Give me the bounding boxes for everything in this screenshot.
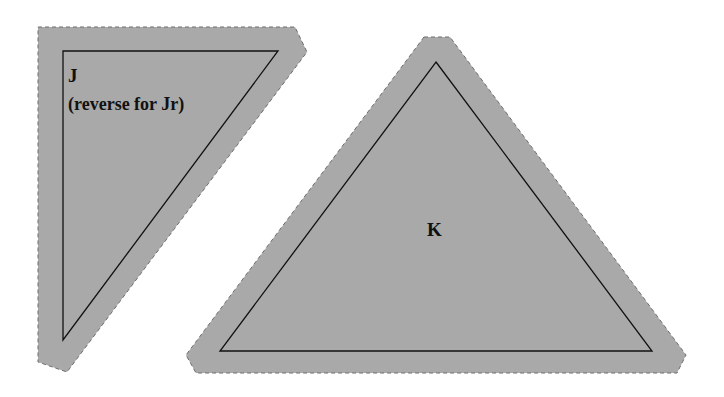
pattern-pieces-canvas: J (reverse for Jr) K	[0, 0, 724, 397]
piece-j-label: J	[68, 65, 78, 86]
piece-j-note: (reverse for Jr)	[68, 94, 184, 115]
piece-k-label: K	[427, 219, 442, 240]
